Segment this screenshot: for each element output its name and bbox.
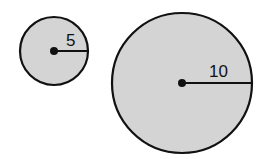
- large-circle: 10: [112, 13, 252, 153]
- circles-diagram: 5 10: [0, 0, 271, 159]
- small-center-dot: [50, 47, 58, 55]
- large-center-dot: [178, 79, 186, 87]
- large-radius-label: 10: [209, 62, 228, 81]
- small-circle: 5: [20, 17, 88, 85]
- small-radius-label: 5: [66, 31, 75, 50]
